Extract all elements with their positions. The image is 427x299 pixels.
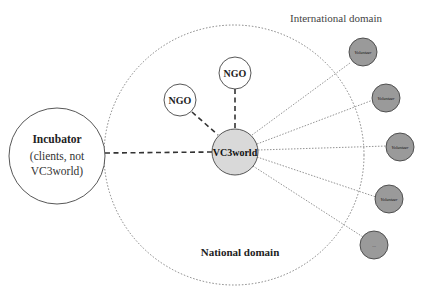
edge-center-volunteer-3 [258, 146, 387, 150]
volunteer-node-5: ... [360, 231, 388, 259]
volunteer-4-label: Volunteer [380, 197, 397, 202]
vc3world-label: VC3world [213, 147, 258, 158]
incubator-subtitle-1: (clients, not [30, 150, 85, 163]
volunteer-node-1: Volunteer [349, 38, 377, 66]
edge-center-volunteer-5 [253, 166, 363, 237]
edge-center-ngo-left [192, 112, 218, 135]
volunteer-node-2: Volunteer [372, 84, 400, 112]
edge-center-volunteer-4 [257, 157, 376, 197]
incubator-subtitle-2: VC3world) [31, 165, 84, 178]
vc3world-node: VC3world [212, 129, 258, 175]
volunteer-1-label: Volunteer [354, 50, 371, 55]
volunteer-2-label: Volunteer [377, 96, 394, 101]
volunteer-node-4: Volunteer [375, 185, 403, 213]
ngo-node-left: NGO [164, 84, 196, 116]
incubator-node: Incubator (clients, not VC3world) [9, 108, 105, 204]
incubator-title: Incubator [32, 133, 81, 145]
network-diagram: Incubator (clients, not VC3world) NGO NG… [0, 0, 427, 299]
edge-center-volunteer-1 [252, 63, 350, 135]
international-domain-label: International domain [290, 12, 382, 24]
ngo-top-label: NGO [224, 68, 247, 79]
volunteer-3-label: Volunteer [391, 145, 408, 150]
volunteer-node-3: Volunteer [386, 133, 414, 161]
national-domain-label: National domain [201, 246, 280, 258]
edge-center-volunteer-2 [257, 100, 373, 144]
ngo-node-top: NGO [219, 57, 251, 89]
edge-center-incubator [105, 152, 212, 153]
volunteer-5-label: ... [372, 243, 376, 248]
ngo-left-label: NGO [169, 95, 192, 106]
